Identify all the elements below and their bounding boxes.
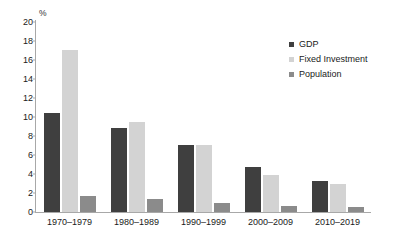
legend-swatch-icon bbox=[289, 42, 294, 47]
bar-group-bars bbox=[103, 22, 170, 212]
bar-fixed-investment[interactable] bbox=[62, 50, 78, 212]
bar-fixed-investment[interactable] bbox=[196, 145, 212, 212]
bar-gdp[interactable] bbox=[312, 181, 328, 212]
bar-group: 1970–1979 bbox=[36, 22, 103, 212]
y-tick-label: 18 bbox=[0, 37, 33, 46]
bar-population[interactable] bbox=[348, 207, 364, 212]
legend-swatch-icon bbox=[289, 57, 294, 62]
y-axis-unit-label: % bbox=[39, 8, 47, 18]
grouped-bar-chart: % 20181614121086420 1970–19791980–198919… bbox=[0, 0, 397, 239]
bar-group-bars bbox=[170, 22, 237, 212]
bar-group: 1980–1989 bbox=[103, 22, 170, 212]
bar-gdp[interactable] bbox=[245, 167, 261, 212]
x-tick-label: 2000–2009 bbox=[248, 218, 293, 227]
legend-label: GDP bbox=[299, 40, 319, 49]
bar-group-bars bbox=[36, 22, 103, 212]
y-tick-label: 14 bbox=[0, 75, 33, 84]
legend-item-population[interactable]: Population bbox=[289, 68, 368, 81]
bar-gdp[interactable] bbox=[111, 128, 127, 212]
y-tick-label: 10 bbox=[0, 113, 33, 122]
bar-population[interactable] bbox=[214, 203, 230, 213]
bar-fixed-investment[interactable] bbox=[263, 175, 279, 212]
x-tick-label: 2010–2019 bbox=[315, 218, 360, 227]
x-tick-label: 1990–1999 bbox=[181, 218, 226, 227]
bar-population[interactable] bbox=[80, 196, 96, 212]
y-tick-label: 8 bbox=[0, 132, 33, 141]
y-tick-label: 12 bbox=[0, 94, 33, 103]
chart-legend: GDPFixed InvestmentPopulation bbox=[289, 38, 368, 83]
x-axis-line bbox=[35, 212, 371, 213]
y-tick-label: 4 bbox=[0, 170, 33, 179]
bar-fixed-investment[interactable] bbox=[330, 184, 346, 213]
legend-swatch-icon bbox=[289, 72, 294, 77]
bar-population[interactable] bbox=[147, 199, 163, 212]
y-tick-label: 20 bbox=[0, 18, 33, 27]
x-tick-label: 1980–1989 bbox=[114, 218, 159, 227]
bar-fixed-investment[interactable] bbox=[129, 122, 145, 212]
legend-item-gdp[interactable]: GDP bbox=[289, 38, 368, 51]
y-tick-label: 6 bbox=[0, 151, 33, 160]
bar-gdp[interactable] bbox=[44, 113, 60, 212]
bar-gdp[interactable] bbox=[178, 145, 194, 212]
y-tick-label: 2 bbox=[0, 189, 33, 198]
x-tick-label: 1970–1979 bbox=[47, 218, 92, 227]
bar-population[interactable] bbox=[281, 206, 297, 212]
bar-group: 1990–1999 bbox=[170, 22, 237, 212]
y-tick-label: 16 bbox=[0, 56, 33, 65]
y-tick-label: 0 bbox=[0, 208, 33, 217]
legend-label: Fixed Investment bbox=[299, 55, 368, 64]
legend-label: Population bbox=[299, 70, 342, 79]
legend-item-fixed-investment[interactable]: Fixed Investment bbox=[289, 53, 368, 66]
